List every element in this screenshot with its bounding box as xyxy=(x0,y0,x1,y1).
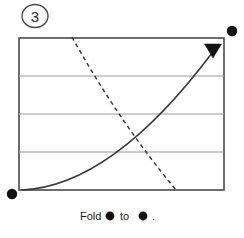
caption-target-dot-icon xyxy=(139,212,148,221)
diagram-canvas: 3 Fold to . xyxy=(0,0,244,238)
target-corner-dot-icon xyxy=(227,26,237,36)
caption-suffix-label: . xyxy=(152,210,155,222)
caption: Fold to . xyxy=(80,210,155,222)
caption-middle-label: to xyxy=(120,210,129,222)
caption-prefix-label: Fold xyxy=(80,210,101,222)
caption-source-dot-icon xyxy=(106,212,115,221)
source-corner-dot-icon xyxy=(7,189,17,199)
step-number-label: 3 xyxy=(31,8,39,25)
fold-step-figure: 3 Fold to . xyxy=(0,0,244,238)
step-number-badge: 3 xyxy=(22,5,48,28)
